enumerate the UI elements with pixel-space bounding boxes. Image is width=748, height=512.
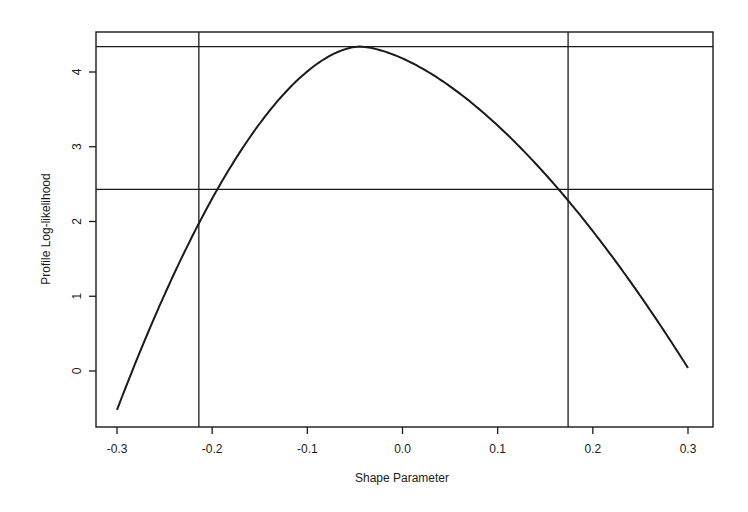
x-tick-label: 0.0	[394, 442, 411, 456]
likelihood-curve	[117, 47, 688, 410]
x-tick-label: -0.3	[107, 442, 128, 456]
y-tick-label: 1	[70, 293, 84, 300]
x-tick-label: 0.3	[680, 442, 697, 456]
y-tick-label: 0	[70, 367, 84, 374]
plot-border	[96, 32, 713, 427]
y-tick-label: 4	[70, 68, 84, 75]
y-tick-label: 3	[70, 143, 84, 150]
y-axis: 01234	[70, 68, 96, 374]
x-tick-label: 0.2	[584, 442, 601, 456]
x-axis: -0.3-0.2-0.10.00.10.20.3	[107, 427, 697, 456]
profile-likelihood-chart: -0.3-0.2-0.10.00.10.20.3 01234 Shape Par…	[0, 0, 748, 512]
reference-lines	[96, 32, 713, 427]
plot-frame	[96, 32, 713, 427]
x-tick-label: 0.1	[489, 442, 506, 456]
y-tick-label: 2	[70, 218, 84, 225]
y-axis-label: Profile Log-likelihood	[39, 173, 53, 284]
x-tick-label: -0.1	[297, 442, 318, 456]
x-tick-label: -0.2	[202, 442, 223, 456]
x-axis-label: Shape Parameter	[355, 471, 449, 485]
likelihood-curve-path	[117, 47, 688, 410]
